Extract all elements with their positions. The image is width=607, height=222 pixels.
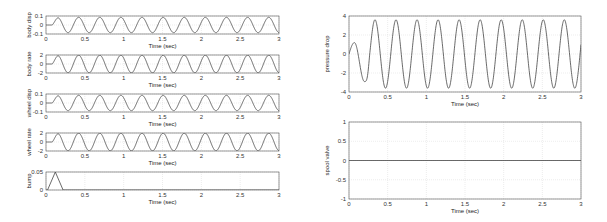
x-tick-label: 2.5 [538, 201, 547, 207]
x-tick-label: 0.5 [81, 153, 90, 159]
x-tick-label: 1 [122, 192, 126, 198]
x-tick-label: 1 [122, 153, 126, 159]
y-axis-label: body disp [26, 11, 32, 37]
x-tick-label: 2 [200, 36, 204, 42]
x-tick-label: 1 [425, 201, 429, 207]
x-tick-label: 1 [122, 75, 126, 81]
y-tick-label: -4 [341, 89, 347, 95]
x-axis-label: Time (sec) [148, 82, 176, 88]
y-tick-label: 2 [40, 130, 44, 136]
x-tick-label: 2 [502, 94, 506, 100]
x-tick-label: 0.5 [81, 114, 90, 120]
x-tick-label: 0 [347, 94, 351, 100]
y-tick-label: -1 [341, 196, 347, 202]
y-tick-label: -0.1 [33, 109, 44, 115]
x-tick-label: 1.5 [158, 75, 167, 81]
y-axis-label: body rate [26, 51, 32, 77]
grid [349, 16, 581, 92]
x-tick-label: 0 [44, 114, 48, 120]
x-tick-label: 1 [122, 114, 126, 120]
y-tick-label: -2 [38, 148, 44, 154]
x-tick-label: 0.5 [81, 75, 90, 81]
x-tick-label: 1.5 [461, 94, 470, 100]
x-axis-label: Time (sec) [148, 199, 176, 205]
y-tick-label: -0.5 [336, 177, 347, 183]
x-axis-label: Time (sec) [148, 43, 176, 49]
x-tick-label: 0 [44, 36, 48, 42]
subplot-spool-valve: 00.511.522.5310.50-0.5-1Time (sec)spool … [324, 119, 583, 214]
y-axis-label: spool valve [324, 145, 330, 176]
y-tick-label: 0.1 [35, 13, 44, 19]
grid [46, 172, 279, 190]
x-tick-label: 2 [200, 153, 204, 159]
x-tick-label: 3 [277, 114, 281, 120]
x-tick-label: 0.5 [81, 192, 90, 198]
y-axis-label: wheel rate [26, 127, 32, 156]
y-tick-label: 0 [343, 51, 347, 57]
x-tick-label: 0.5 [383, 94, 392, 100]
x-tick-label: 0.5 [383, 201, 392, 207]
y-tick-label: 0 [40, 22, 44, 28]
y-tick-label: 2 [343, 32, 347, 38]
x-tick-label: 1.5 [461, 201, 470, 207]
x-tick-label: 3 [579, 201, 583, 207]
x-tick-label: 1.5 [158, 153, 167, 159]
y-axis-label: bump [26, 173, 32, 189]
x-tick-label: 3 [277, 75, 281, 81]
x-tick-label: 0 [347, 201, 351, 207]
x-tick-label: 1.5 [158, 36, 167, 42]
x-tick-label: 2 [200, 75, 204, 81]
x-tick-label: 3 [277, 153, 281, 159]
y-tick-label: 1 [343, 119, 347, 125]
figure: 00.511.522.530.10-0.1Time (sec)body disp… [0, 0, 607, 222]
x-tick-label: 3 [579, 94, 583, 100]
y-tick-label: -0.1 [33, 31, 44, 37]
y-tick-label: 0 [40, 61, 44, 67]
y-axis-label: pressure drop [324, 35, 330, 73]
x-tick-label: 2 [200, 114, 204, 120]
y-tick-label: 0 [343, 158, 347, 164]
y-tick-label: 4 [343, 13, 347, 19]
x-tick-label: 0 [44, 75, 48, 81]
subplot-wheel-rate: 00.511.522.5320-2Time (sec)wheel rate [26, 127, 281, 166]
y-tick-label: -2 [38, 70, 44, 76]
y-tick-label: 0 [40, 187, 44, 193]
x-tick-label: 2.5 [236, 114, 245, 120]
y-tick-label: 2 [40, 52, 44, 58]
x-axis-label: Time (sec) [148, 160, 176, 166]
x-tick-label: 2.5 [236, 192, 245, 198]
y-tick-label: 0 [40, 139, 44, 145]
subplot-body-rate: 00.511.522.5320-2Time (sec)body rate [26, 51, 281, 88]
x-tick-label: 2.5 [538, 94, 547, 100]
x-tick-label: 3 [277, 36, 281, 42]
x-axis-label: Time (sec) [451, 208, 479, 214]
subplot-bump: 00.511.522.530.050Time (sec)bump [26, 169, 281, 205]
subplot-body-disp: 00.511.522.530.10-0.1Time (sec)body disp [26, 11, 281, 49]
x-tick-label: 2.5 [236, 153, 245, 159]
x-tick-label: 0.5 [81, 36, 90, 42]
y-tick-label: -2 [341, 70, 347, 76]
y-tick-label: 0.1 [35, 91, 44, 97]
x-tick-label: 1 [122, 36, 126, 42]
x-tick-label: 3 [277, 192, 281, 198]
subplot-wheel-disp: 00.511.522.530.10-0.1Time (sec)wheel dis… [26, 88, 281, 127]
x-tick-label: 0 [44, 153, 48, 159]
x-axis-label: Time (sec) [148, 121, 176, 127]
x-tick-label: 1.5 [158, 114, 167, 120]
x-tick-label: 2 [200, 192, 204, 198]
y-tick-label: 0.05 [31, 169, 43, 175]
x-tick-label: 2 [502, 201, 506, 207]
y-tick-label: 0 [40, 100, 44, 106]
x-tick-label: 1.5 [158, 192, 167, 198]
x-axis-label: Time (sec) [451, 101, 479, 107]
x-tick-label: 2.5 [236, 36, 245, 42]
x-tick-label: 1 [425, 94, 429, 100]
x-tick-label: 2.5 [236, 75, 245, 81]
x-tick-label: 0 [44, 192, 48, 198]
subplot-pressure-drop: 00.511.522.53420-2-4Time (sec)pressure d… [324, 13, 583, 107]
y-axis-label: wheel disp [26, 88, 32, 118]
y-tick-label: 0.5 [338, 138, 347, 144]
